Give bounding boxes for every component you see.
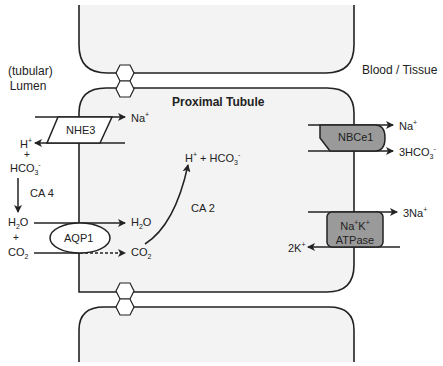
o-text: O <box>143 216 152 228</box>
lumen-label: (tubular) Lumen <box>8 64 48 94</box>
cell-title: Proximal Tubule <box>172 96 264 108</box>
proximal-tubule-cell <box>79 88 354 292</box>
upper-cell <box>79 5 354 73</box>
cell-co2-label: CO2 <box>131 247 151 260</box>
na-k-atpase-label: Na+K+ ATPase <box>327 216 383 247</box>
lumen-h2o-label: H2O <box>8 217 28 230</box>
h-charge: + <box>193 151 197 158</box>
k-charge: + <box>366 219 370 226</box>
h-text: H <box>20 138 28 150</box>
na-charge: + <box>145 111 149 118</box>
o-text: O <box>20 216 29 228</box>
k-text: K <box>358 220 365 232</box>
lumen-label-line2: Lumen <box>8 79 48 94</box>
na-charge: + <box>413 119 417 126</box>
nhe3-label: NHE3 <box>66 125 95 136</box>
hco3-sub: 3 <box>430 153 434 160</box>
ca4-label: CA 4 <box>30 188 54 199</box>
proximal-tubule-diagram: (tubular) Lumen Blood / Tissue Proximal … <box>0 0 443 366</box>
co2-sub: 2 <box>25 253 29 260</box>
k-text: 2K <box>288 242 301 254</box>
hco3-text: HCO <box>10 162 34 174</box>
hco3-charge: - <box>433 145 435 152</box>
aqp1-label: AQP1 <box>64 233 93 244</box>
nak-2k-label: 2K+ <box>288 241 306 254</box>
h-text: H <box>185 152 193 164</box>
atpase-text: ATPase <box>327 233 383 247</box>
nbce1-hco3-label: 3HCO3- <box>399 145 436 160</box>
h-text: H <box>131 216 139 228</box>
cell-products-label: H+ + HCO3- <box>185 151 240 166</box>
hco3-charge: - <box>238 151 240 158</box>
na-k-line: Na+K+ <box>327 216 383 233</box>
ca2-label: CA 2 <box>191 203 215 214</box>
lumen-hco3-label: HCO3- <box>10 161 41 176</box>
na-text: Na <box>131 112 145 124</box>
hco3-sub: 3 <box>34 169 38 176</box>
nbce1-label: NBCe1 <box>338 132 373 143</box>
blood-tissue-label: Blood / Tissue <box>362 64 437 76</box>
lumen-label-line1: (tubular) <box>8 64 48 79</box>
na-text: 3Na <box>403 207 423 219</box>
na-text: Na <box>340 220 354 232</box>
h-charge: + <box>28 137 32 144</box>
h-text: H <box>8 216 16 228</box>
co-text: CO <box>8 246 25 258</box>
co2-sub: 2 <box>148 253 152 260</box>
nbce1-na-label: Na+ <box>399 119 417 132</box>
plus-sign-1: + <box>24 150 30 160</box>
co-text: CO <box>131 246 148 258</box>
lumen-co2-label: CO2 <box>8 247 28 260</box>
tight-junction-bottom <box>116 283 134 315</box>
hco3-text: HCO <box>210 152 234 164</box>
tight-junction-top <box>116 65 134 97</box>
nhe3-na-label: Na+ <box>131 111 149 124</box>
plus-sign-2: + <box>13 233 19 243</box>
nak-3na-label: 3Na+ <box>403 206 427 219</box>
hco3-text: 3HCO <box>399 146 430 158</box>
hco3-sub: 3 <box>234 159 238 166</box>
nhe3-h-label: H+ <box>20 137 32 150</box>
hco3-charge: - <box>38 161 40 168</box>
k-charge: + <box>301 241 305 248</box>
plus-sign: + <box>200 152 206 164</box>
na-text: Na <box>399 120 413 132</box>
cell-h2o-label: H2O <box>131 217 151 230</box>
na-charge: + <box>423 206 427 213</box>
